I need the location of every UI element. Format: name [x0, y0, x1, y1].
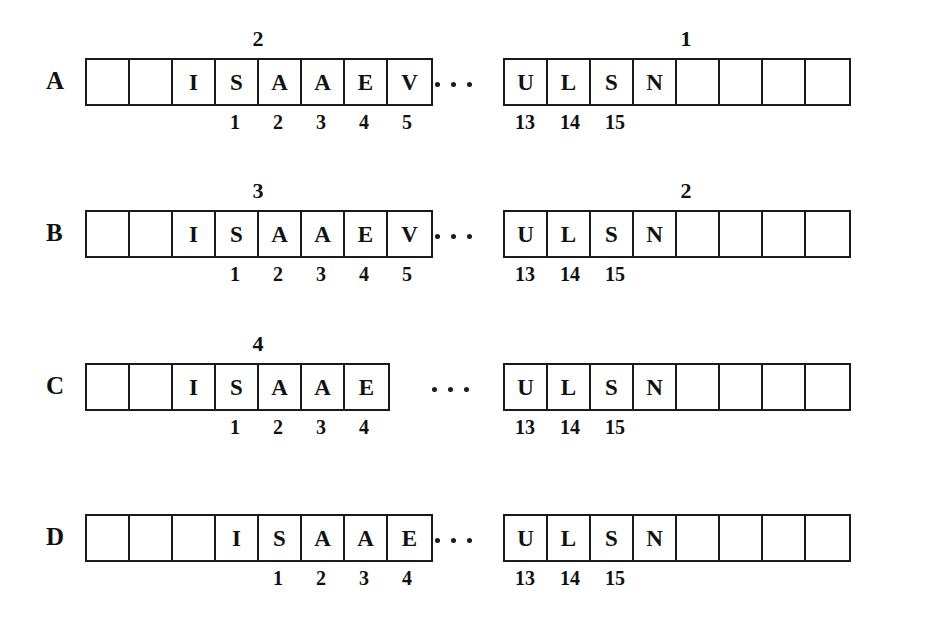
- residue-cell: S: [591, 365, 634, 409]
- empty-cell: [763, 365, 806, 409]
- residue-cell: E: [345, 212, 388, 256]
- gap-count-marker: 3: [246, 180, 270, 202]
- residue-cell: S: [216, 60, 259, 104]
- position-index-label: 5: [390, 264, 424, 284]
- left-sequence-grid: ISAAE: [85, 514, 433, 562]
- empty-cell: [677, 516, 720, 560]
- ellipsis-dot: [432, 387, 437, 392]
- right-sequence-grid: ULSN: [503, 58, 851, 106]
- ellipsis-dot: [451, 538, 456, 543]
- right-sequence-grid: ULSN: [503, 363, 851, 411]
- position-index-label: 13: [508, 264, 542, 284]
- empty-cell: [806, 60, 849, 104]
- residue-cell: V: [388, 60, 431, 104]
- residue-cell: U: [505, 212, 548, 256]
- empty-cell: [806, 212, 849, 256]
- empty-cell: [720, 516, 763, 560]
- position-index-label: 15: [598, 417, 632, 437]
- residue-cell: S: [216, 365, 259, 409]
- position-index-label: 13: [508, 112, 542, 132]
- empty-cell: [720, 365, 763, 409]
- position-index-label: 13: [508, 568, 542, 588]
- left-sequence-grid: ISAAEV: [85, 58, 433, 106]
- residue-cell: L: [548, 516, 591, 560]
- residue-cell: A: [259, 60, 302, 104]
- residue-cell: A: [302, 516, 345, 560]
- empty-cell: [720, 212, 763, 256]
- gap-count-marker: 2: [246, 28, 270, 50]
- ellipsis-dots: [432, 379, 469, 399]
- residue-cell: N: [634, 212, 677, 256]
- ellipsis-dot: [464, 387, 469, 392]
- residue-cell: U: [505, 516, 548, 560]
- ellipsis-dots: [435, 74, 472, 94]
- position-index-label: 13: [508, 417, 542, 437]
- ellipsis-dot: [451, 234, 456, 239]
- empty-cell: [720, 60, 763, 104]
- position-index-label: 2: [261, 112, 295, 132]
- position-index-label: 5: [390, 112, 424, 132]
- ellipsis-dot: [448, 387, 453, 392]
- residue-cell: A: [259, 365, 302, 409]
- position-index-label: 1: [218, 417, 252, 437]
- position-index-label: 15: [598, 568, 632, 588]
- empty-cell: [173, 516, 216, 560]
- residue-cell: A: [302, 212, 345, 256]
- empty-cell: [87, 60, 130, 104]
- residue-cell: E: [345, 365, 388, 409]
- left-sequence-grid: ISAAEV: [85, 210, 433, 258]
- row-label: B: [46, 220, 63, 245]
- residue-cell: S: [591, 212, 634, 256]
- right-sequence-grid: ULSN: [503, 514, 851, 562]
- position-index-label: 3: [304, 417, 338, 437]
- gap-count-marker: 2: [674, 180, 698, 202]
- position-index-label: 14: [553, 568, 587, 588]
- residue-cell: E: [388, 516, 431, 560]
- residue-cell: A: [302, 60, 345, 104]
- position-index-label: 14: [553, 417, 587, 437]
- position-index-label: 4: [347, 264, 381, 284]
- empty-cell: [130, 516, 173, 560]
- residue-cell: S: [591, 60, 634, 104]
- position-index-label: 4: [347, 112, 381, 132]
- empty-cell: [763, 212, 806, 256]
- ellipsis-dot: [467, 538, 472, 543]
- position-index-label: 2: [304, 568, 338, 588]
- position-index-label: 2: [261, 417, 295, 437]
- position-index-label: 4: [390, 568, 424, 588]
- residue-cell: V: [388, 212, 431, 256]
- empty-cell: [87, 516, 130, 560]
- residue-cell: L: [548, 365, 591, 409]
- sequence-alignment-figure: AISAAEV212345ULSN1131415BISAAEV312345ULS…: [0, 0, 928, 618]
- empty-cell: [130, 212, 173, 256]
- ellipsis-dot: [435, 234, 440, 239]
- ellipsis-dot: [435, 82, 440, 87]
- empty-cell: [806, 365, 849, 409]
- position-index-label: 2: [261, 264, 295, 284]
- position-index-label: 4: [347, 417, 381, 437]
- ellipsis-dots: [435, 226, 472, 246]
- residue-cell: L: [548, 60, 591, 104]
- residue-cell: S: [591, 516, 634, 560]
- position-index-label: 1: [218, 112, 252, 132]
- residue-cell: E: [345, 60, 388, 104]
- residue-cell: A: [345, 516, 388, 560]
- empty-cell: [677, 60, 720, 104]
- residue-cell: U: [505, 365, 548, 409]
- right-sequence-grid: ULSN: [503, 210, 851, 258]
- gap-count-marker: 4: [246, 333, 270, 355]
- ellipsis-dot: [435, 538, 440, 543]
- position-index-label: 3: [304, 112, 338, 132]
- residue-cell: L: [548, 212, 591, 256]
- empty-cell: [87, 365, 130, 409]
- position-index-label: 3: [304, 264, 338, 284]
- position-index-label: 14: [553, 112, 587, 132]
- empty-cell: [130, 60, 173, 104]
- position-index-label: 1: [218, 264, 252, 284]
- residue-cell: N: [634, 516, 677, 560]
- residue-cell: S: [259, 516, 302, 560]
- residue-cell: N: [634, 60, 677, 104]
- empty-cell: [130, 365, 173, 409]
- gap-count-marker: 1: [674, 28, 698, 50]
- residue-cell: A: [302, 365, 345, 409]
